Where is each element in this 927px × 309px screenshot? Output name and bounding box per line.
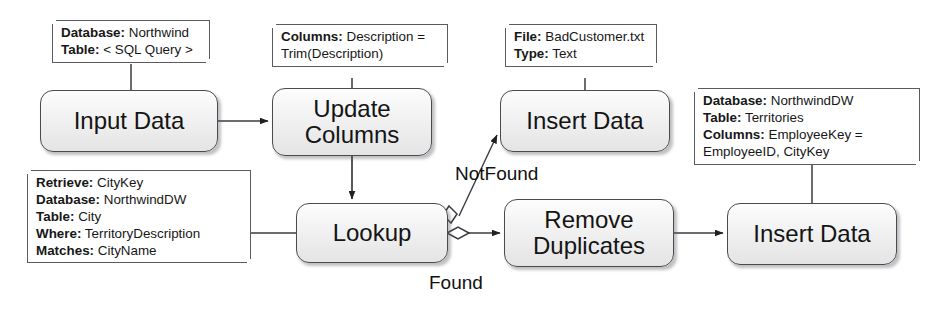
bracket-top: [276, 24, 448, 25]
note-key: Table:: [61, 42, 99, 57]
bracket-left: [694, 92, 695, 165]
bracket-bottom: [694, 164, 916, 165]
note-key: Where:: [36, 226, 81, 241]
note-update-columns: Columns: Description = Trim(Description): [272, 24, 448, 67]
note-value: NorthwindDW: [100, 192, 186, 207]
note-insert-data-dw: Database: NorthwindDW Table: Territories…: [694, 88, 920, 165]
bracket-left: [27, 174, 28, 263]
note-line: Where: TerritoryDescription: [36, 226, 243, 243]
note-line: Type: Text: [514, 46, 649, 63]
note-line: File: BadCustomer.txt: [514, 29, 649, 46]
note-key: Columns:: [281, 29, 343, 44]
note-key: Database:: [61, 25, 125, 40]
note-key: Matches:: [36, 243, 94, 258]
bracket-bottom: [52, 62, 206, 63]
note-value: BadCustomer.txt: [542, 29, 645, 44]
note-value: Description =: [343, 29, 425, 44]
node-label: Input Data: [68, 108, 191, 134]
node-label: Insert Data: [747, 221, 876, 247]
node-remove-duplicates[interactable]: Remove Duplicates: [504, 199, 674, 267]
bracket-right: [209, 20, 210, 59]
node-label: Insert Data: [520, 108, 649, 134]
note-value: Trim(Description): [281, 46, 383, 61]
note-value: EmployeeID, CityKey: [703, 144, 830, 159]
note-line: Database: NorthwindDW: [703, 93, 912, 110]
bracket-right: [919, 88, 920, 161]
node-insert-data-bad[interactable]: Insert Data: [500, 90, 670, 152]
branch-label-found: Found: [429, 272, 483, 294]
bracket-left: [505, 28, 506, 67]
note-line: Table: < SQL Query >: [61, 42, 202, 59]
bracket-right: [447, 24, 448, 63]
note-line: Trim(Description): [281, 46, 440, 63]
bracket-bottom: [505, 66, 653, 67]
bracket-left: [52, 24, 53, 63]
note-key: Type:: [514, 46, 549, 61]
bracket-right: [250, 170, 251, 259]
note-value: EmployeeKey =: [765, 127, 863, 142]
bracket-top: [509, 24, 657, 25]
node-label: Update Columns: [299, 96, 406, 148]
branch-label-notfound: NotFound: [455, 163, 538, 185]
note-insert-data-bad: File: BadCustomer.txt Type: Text: [505, 24, 657, 67]
note-line: Table: City: [36, 209, 243, 226]
note-line: Table: Territories: [703, 110, 912, 127]
bracket-top: [56, 20, 210, 21]
note-line: Retrieve: CityKey: [36, 175, 243, 192]
note-key: Database:: [703, 93, 767, 108]
bracket-right: [656, 24, 657, 63]
note-line: Columns: EmployeeKey =: [703, 127, 912, 144]
bracket-left: [272, 28, 273, 67]
note-key: Retrieve:: [36, 175, 93, 190]
note-value: TerritoryDescription: [81, 226, 200, 241]
note-key: Table:: [36, 209, 74, 224]
bracket-top: [698, 88, 920, 89]
note-value: City: [74, 209, 101, 224]
note-value: Text: [549, 46, 577, 61]
note-key: Database:: [36, 192, 100, 207]
note-key: Columns:: [703, 127, 765, 142]
note-value: < SQL Query >: [99, 42, 192, 57]
note-line: Matches: CityName: [36, 243, 243, 260]
etl-flow-diagram: Input Data Update Columns Insert Data Lo…: [0, 0, 927, 309]
note-input-data: Database: Northwind Table: < SQL Query >: [52, 20, 210, 63]
note-key: File:: [514, 29, 542, 44]
note-key: Table:: [703, 110, 741, 125]
note-line: Database: NorthwindDW: [36, 192, 243, 209]
node-update-columns[interactable]: Update Columns: [272, 88, 432, 156]
node-lookup[interactable]: Lookup: [296, 203, 448, 263]
note-value: CityKey: [93, 175, 143, 190]
node-input-data[interactable]: Input Data: [40, 90, 218, 152]
note-value: Territories: [741, 110, 803, 125]
node-insert-data-dw[interactable]: Insert Data: [727, 203, 897, 265]
note-value: CityName: [94, 243, 157, 258]
bracket-bottom: [27, 262, 247, 263]
node-label: Lookup: [327, 220, 418, 246]
node-label: Remove Duplicates: [527, 207, 651, 259]
branch-diamond-found: [447, 227, 469, 239]
note-lookup: Retrieve: CityKey Database: NorthwindDW …: [27, 170, 251, 263]
note-value: NorthwindDW: [767, 93, 853, 108]
note-line: Columns: Description =: [281, 29, 440, 46]
bracket-bottom: [272, 66, 444, 67]
note-value: Northwind: [125, 25, 189, 40]
note-line: EmployeeID, CityKey: [703, 144, 912, 161]
bracket-top: [31, 170, 251, 171]
note-line: Database: Northwind: [61, 25, 202, 42]
